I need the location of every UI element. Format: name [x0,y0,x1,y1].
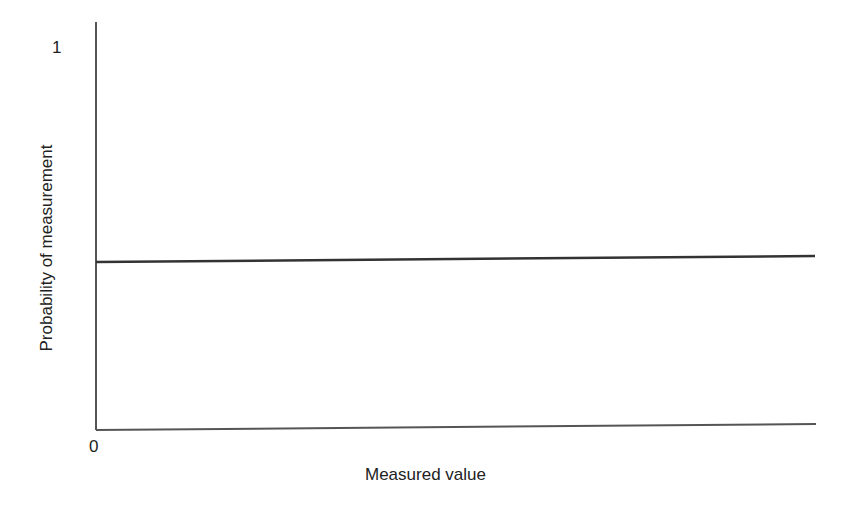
y-axis-title: Probability of measurement [37,145,57,352]
origin-tick-label: 0 [89,438,98,455]
plot-area [0,0,855,507]
data-line-uniform [96,256,815,262]
y-tick-max-label: 1 [52,39,61,56]
x-axis [96,424,816,430]
x-axis-title: Measured value [365,465,486,485]
